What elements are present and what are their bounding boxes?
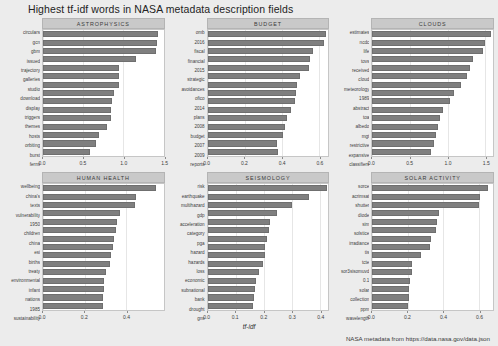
- facet-strip-label: BUDGET: [207, 18, 330, 29]
- bar-row: [43, 243, 164, 251]
- x-axis-tick-label: 0.2: [404, 314, 411, 320]
- bar: [372, 31, 490, 37]
- bar-row: [372, 293, 493, 301]
- y-axis-tick-label: orbiting: [4, 142, 40, 151]
- bar: [372, 48, 483, 54]
- bar: [372, 90, 453, 96]
- x-axis-tick: [371, 157, 372, 159]
- y-axis-tick-label: estimates: [333, 29, 369, 38]
- x-axis-tick: [407, 311, 408, 313]
- y-axis-tick-label: abstract: [333, 104, 369, 113]
- bar-row: [43, 260, 164, 268]
- bar: [43, 252, 111, 258]
- bar-row: [372, 302, 493, 310]
- bar: [208, 294, 254, 300]
- bar-row: [43, 302, 164, 310]
- plot-area: [207, 183, 330, 311]
- x-axis: 0.00.51.01.5: [371, 157, 494, 170]
- x-axis-label: tf-idf: [0, 323, 498, 330]
- bar: [208, 48, 313, 54]
- bar: [43, 115, 111, 121]
- x-axis-tick: [448, 157, 449, 159]
- bar: [43, 107, 111, 113]
- bar: [372, 227, 436, 233]
- page-title: Highest tf-idf words in NASA metadata de…: [28, 3, 293, 15]
- y-axis-tick-label: infant: [4, 286, 40, 295]
- bar: [208, 124, 285, 130]
- bar-row: [43, 184, 164, 192]
- bar: [372, 124, 438, 130]
- y-axis-tick-labels: wellbeingchina'stextsvulnerability1950ch…: [4, 183, 42, 324]
- facet-strip-label: SOLAR ACTIVITY: [371, 172, 494, 183]
- bar: [43, 194, 136, 200]
- y-axis-tick-label: loss: [169, 268, 205, 277]
- bar-row: [372, 276, 493, 284]
- x-axis-tick: [320, 157, 321, 159]
- y-axis-tick-label: 1950: [4, 221, 40, 230]
- bar-row: [372, 38, 493, 46]
- x-axis-tick: [165, 157, 166, 159]
- x-axis-tick: [124, 157, 125, 159]
- bar: [43, 278, 104, 284]
- y-axis-tick-label: ppm: [333, 305, 369, 314]
- bar: [208, 90, 296, 96]
- chart-caption: NASA metadata from https://data.nasa.gov…: [346, 335, 490, 342]
- plot-area: [371, 29, 494, 157]
- x-axis-tick: [371, 311, 372, 313]
- bar: [372, 219, 436, 225]
- facet-strip-label: SEISMOLOGY: [207, 172, 330, 183]
- y-axis-tick-label: acceleration: [169, 221, 205, 230]
- x-axis-tick: [443, 311, 444, 313]
- y-axis-tick-label: texts: [4, 202, 40, 211]
- x-axis-tick-label: 0.2: [260, 314, 267, 320]
- plot-column: 0.00.20.4: [42, 183, 165, 324]
- bar-row: [208, 55, 329, 63]
- bar: [372, 40, 485, 46]
- panel-wrapper: wellbeingchina'stextsvulnerability1950ch…: [4, 183, 165, 324]
- y-axis-tick-labels: circularsgcngbmissuedtrajectorygalleries…: [4, 29, 42, 170]
- panel-wrapper: riskearthquakemultihazardgdpacceleration…: [169, 183, 330, 324]
- bar-row: [208, 38, 329, 46]
- y-axis-tick-label: issued: [4, 57, 40, 66]
- x-axis-tick: [42, 311, 43, 313]
- bar-row: [43, 38, 164, 46]
- y-axis-tick-label: gdp: [169, 211, 205, 220]
- y-axis-tick-label: subnational: [169, 286, 205, 295]
- y-axis-tick-label: financial: [169, 57, 205, 66]
- panel-wrapper: sorceacrimsatshutterdiodesimsolsticeirra…: [333, 183, 494, 324]
- bar-row: [43, 55, 164, 63]
- bar-row: [372, 106, 493, 114]
- bar-row: [43, 276, 164, 284]
- x-axis-tick-label: 0.2: [241, 160, 248, 166]
- bar: [43, 98, 112, 104]
- y-axis-tick-label: sorce: [333, 183, 369, 192]
- bar-row: [208, 114, 329, 122]
- y-axis-tick-label: 2014: [169, 104, 205, 113]
- bar: [372, 65, 470, 71]
- bar-row: [208, 80, 329, 88]
- bar: [208, 252, 265, 258]
- facet-strip-label: HUMAN HEALTH: [42, 172, 165, 183]
- y-axis-tick-label: earthquake: [169, 192, 205, 201]
- y-axis-tick-label: restrictive: [333, 142, 369, 151]
- bar-row: [372, 30, 493, 38]
- bar: [208, 132, 283, 138]
- bar-row: [208, 64, 329, 72]
- y-axis-tick-label: china's: [4, 192, 40, 201]
- y-axis-tick-label: diode: [333, 211, 369, 220]
- y-axis-tick-label: toa: [333, 114, 369, 123]
- x-axis: 0.00.20.40.6: [207, 157, 330, 170]
- y-axis-tick-label: display: [4, 104, 40, 113]
- bar-row: [43, 139, 164, 147]
- bar-row: [208, 243, 329, 251]
- x-axis: 0.00.51.01.5: [42, 157, 165, 170]
- panel-wrapper: circularsgcngbmissuedtrajectorygalleries…: [4, 29, 165, 170]
- bar-row: [208, 201, 329, 209]
- x-axis-tick: [235, 311, 236, 313]
- x-axis-tick: [127, 311, 128, 313]
- y-axis-tick-label: 2008: [169, 123, 205, 132]
- bar-row: [43, 209, 164, 217]
- bar-series: [372, 184, 493, 310]
- bar: [208, 210, 278, 216]
- bar: [372, 261, 412, 267]
